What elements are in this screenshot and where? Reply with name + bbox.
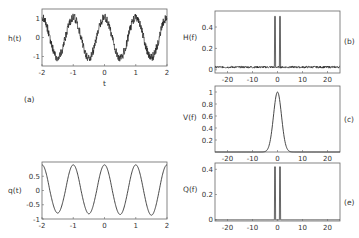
svg-text:1: 1	[209, 89, 213, 97]
svg-text:-10: -10	[247, 155, 258, 163]
svg-text:10: 10	[298, 155, 307, 163]
svg-text:0: 0	[209, 66, 213, 74]
svg-text:-2: -2	[39, 69, 46, 77]
panel-label-b: (b)	[344, 37, 355, 46]
ylabel-q-t: q(t)	[8, 186, 22, 195]
panel-label-a: (a)	[24, 95, 35, 104]
svg-text:-10: -10	[247, 76, 258, 84]
svg-text:-20: -20	[222, 155, 233, 163]
svg-text:0.5: 0.5	[29, 173, 40, 181]
plot-frame-e	[215, 163, 340, 221]
V-f-curve	[215, 92, 340, 152]
figure-canvas: -2-1012-101 h(t) t (a) -20-100102000.20.…	[0, 0, 359, 238]
svg-text:0.4: 0.4	[202, 125, 214, 133]
svg-text:0: 0	[102, 222, 106, 230]
svg-text:10: 10	[298, 224, 307, 232]
svg-text:20: 20	[323, 155, 332, 163]
panel-q: -2-1012-1-0.500.5 q(t)	[8, 162, 169, 230]
plot-frame-c	[215, 86, 340, 152]
h-t-curve	[42, 14, 167, 61]
ylabel-h-t: h(t)	[8, 34, 22, 43]
svg-text:0: 0	[36, 187, 40, 195]
svg-text:0.6: 0.6	[202, 113, 214, 121]
svg-text:20: 20	[323, 224, 332, 232]
svg-text:0: 0	[275, 155, 279, 163]
svg-text:0.4: 0.4	[202, 166, 214, 174]
svg-text:2: 2	[165, 69, 169, 77]
svg-text:10: 10	[298, 76, 307, 84]
ylabel-H-f: H(f)	[183, 33, 197, 42]
ylabel-V-f: V(f)	[183, 113, 197, 122]
svg-text:1: 1	[36, 15, 40, 23]
panel-label-e: (e)	[344, 198, 355, 207]
svg-text:-20: -20	[222, 224, 233, 232]
svg-text:0.8: 0.8	[202, 101, 213, 109]
svg-text:1: 1	[134, 69, 138, 77]
svg-text:2: 2	[165, 222, 169, 230]
svg-text:-10: -10	[247, 224, 258, 232]
svg-text:0: 0	[36, 34, 40, 42]
Q-f-curve	[215, 167, 340, 220]
svg-text:-1: -1	[70, 222, 77, 230]
svg-text:0: 0	[275, 224, 279, 232]
ticks-e: -20-100102000.20.4	[202, 166, 332, 232]
svg-text:-1: -1	[33, 53, 40, 61]
svg-text:0.2: 0.2	[202, 191, 213, 199]
svg-text:0: 0	[209, 216, 213, 224]
ticks-b: -20-100102000.20.4	[202, 24, 332, 84]
panel-e: -20-100102000.20.4 Q(f) (e)	[183, 163, 355, 232]
svg-text:0: 0	[275, 76, 279, 84]
svg-text:0: 0	[102, 69, 106, 77]
svg-text:20: 20	[323, 76, 332, 84]
ylabel-Q-f: Q(f)	[183, 185, 197, 194]
svg-text:1: 1	[134, 222, 138, 230]
panel-b: -20-100102000.20.4 H(f) (b)	[183, 11, 355, 84]
svg-text:-0.5: -0.5	[26, 201, 40, 209]
plot-frame-b	[215, 11, 340, 73]
xlabel-t: t	[103, 79, 106, 88]
svg-text:0.4: 0.4	[202, 24, 214, 32]
svg-text:0.2: 0.2	[202, 45, 213, 53]
svg-text:-20: -20	[222, 76, 233, 84]
panel-c: -20-10010200.20.40.60.81 V(f) (c)	[183, 86, 354, 163]
ticks-a: -2-1012-101	[33, 15, 169, 77]
svg-text:-1: -1	[70, 69, 77, 77]
H-f-curve	[215, 16, 340, 68]
q-t-curve	[42, 165, 167, 215]
panel-label-c: (c)	[344, 115, 354, 124]
panel-a: -2-1012-101 h(t) t (a)	[8, 9, 169, 104]
svg-text:0.2: 0.2	[202, 137, 213, 145]
svg-text:-1: -1	[33, 216, 40, 224]
